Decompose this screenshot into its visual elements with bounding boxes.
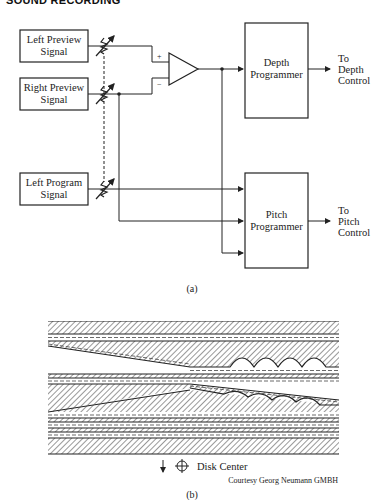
land-hatched (48, 438, 339, 454)
right-preview-label-1: Right Preview (24, 82, 85, 93)
differential-amplifier-icon: + − (157, 52, 198, 89)
junction-dot (220, 67, 224, 71)
land-hatched (48, 341, 339, 367)
pitch-output-label-1: To (338, 205, 349, 216)
left-program-signal-box: Left Program Signal (20, 173, 88, 205)
left-preview-signal-box: Left Preview Signal (20, 30, 88, 62)
figure-b-caption: (b) (186, 489, 198, 500)
pitch-programmer-box: Pitch Programmer (245, 173, 308, 268)
block-diagram-a: Left Preview Signal Right Preview Signal… (20, 23, 370, 295)
left-preview-label-2: Signal (41, 46, 68, 57)
left-program-label-1: Left Program (26, 177, 82, 188)
groove-diagram-b: Disk Center Courtesy Georg Neumann GMBH … (48, 321, 339, 500)
disk-center-label: Disk Center (197, 461, 248, 472)
pitch-programmer-label-2: Programmer (250, 221, 303, 232)
amp-minus-label: − (157, 80, 162, 89)
right-preview-signal-box: Right Preview Signal (20, 78, 88, 110)
depth-output-label-2: Depth (338, 64, 364, 75)
crosshair-icon (175, 459, 189, 473)
left-preview-label-1: Left Preview (27, 34, 82, 45)
amp-plus-label: + (157, 52, 162, 61)
left-program-label-2: Signal (41, 189, 68, 200)
depth-output-label-3: Control (338, 75, 370, 86)
depth-programmer-label-2: Programmer (250, 69, 303, 80)
figure-canvas: Left Preview Signal Right Preview Signal… (0, 0, 384, 500)
pitch-output-label-2: Pitch (338, 216, 360, 227)
depth-programmer-box: Depth Programmer (245, 23, 308, 118)
depth-output-label-1: To (338, 53, 349, 64)
right-preview-label-2: Signal (41, 94, 68, 105)
pitch-programmer-label-1: Pitch (266, 209, 288, 220)
pitch-output-label-3: Control (338, 227, 370, 238)
credit-label: Courtesy Georg Neumann GMBH (228, 476, 338, 485)
land-hatched (48, 321, 339, 334)
figure-a-caption: (a) (186, 283, 197, 295)
junction-dot (117, 92, 121, 96)
depth-programmer-label-1: Depth (264, 57, 290, 68)
